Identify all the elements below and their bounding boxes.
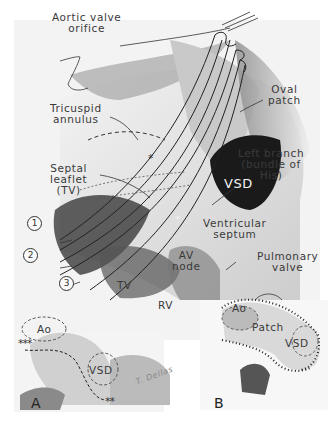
label-ventricular-septum: Ventricular septum: [203, 218, 267, 240]
label-oval-patch: Oval patch: [268, 84, 301, 106]
illustration-artwork: [0, 0, 334, 424]
label-tv: TV: [117, 280, 132, 291]
marker-asterisk-top: *: [148, 152, 153, 165]
marker-circle-2: 2: [23, 248, 38, 263]
label-av-node: AV node: [172, 250, 201, 272]
inset-b-label-pulmonary-valve: Pulmonary valve: [257, 251, 318, 273]
label-tricuspid-annulus: Tricuspid annulus: [50, 103, 102, 125]
inset-b-artwork: [200, 294, 328, 410]
inset-b-label-ao: Ao: [232, 303, 247, 314]
inset-a-panel-label: A: [31, 398, 41, 409]
label-aortic-valve-orifice: Aortic valve orifice: [52, 12, 121, 34]
inset-b-label-patch: Patch: [252, 322, 284, 333]
inset-a-label-ao: Ao: [37, 324, 52, 335]
marker-circle-1: 1: [27, 216, 42, 231]
marker-asterisk-double: **: [105, 395, 114, 408]
label-rv: RV: [158, 300, 173, 311]
surgical-illustration: Aortic valve orifice Tricuspid annulus S…: [0, 0, 334, 424]
marker-asterisk-mid: *: [175, 213, 180, 226]
marker-asterisk-triple: ***: [18, 337, 32, 350]
label-vsd: VSD: [224, 178, 253, 189]
inset-b-panel-label: B: [214, 398, 224, 409]
marker-circle-3: 3: [59, 276, 74, 291]
label-septal-leaflet: Septal leaflet (TV): [50, 163, 87, 196]
inset-b-label-vsd: VSD: [285, 338, 309, 349]
inset-a-label-vsd: VSD: [89, 365, 113, 376]
